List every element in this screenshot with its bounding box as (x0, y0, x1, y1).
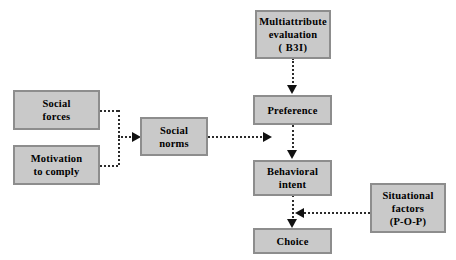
edge-line (300, 212, 370, 214)
node-label-line: Social (160, 124, 188, 137)
edge-line (208, 136, 266, 138)
arrowhead-down-icon (287, 150, 297, 159)
node-social-forces[interactable]: Social forces (13, 90, 100, 130)
edge-line (100, 110, 118, 112)
node-situational-factors[interactable]: Situational factors (P-O-P) (370, 183, 446, 233)
node-label-line: intent (279, 178, 306, 191)
node-label-line: (P-O-P) (390, 215, 426, 228)
node-social-norms[interactable]: Social norms (140, 117, 208, 156)
node-motivation-to-comply[interactable]: Motivation to comply (13, 145, 100, 185)
node-label-line: Behavioral (267, 165, 318, 178)
edge-line (118, 110, 120, 165)
node-label-line: Preference (268, 104, 318, 117)
node-label-line: norms (159, 137, 189, 150)
node-label-line: factors (392, 202, 424, 215)
edge-line (292, 195, 294, 222)
node-label-line: evaluation (269, 28, 318, 41)
node-label-formula: ( B3I) (279, 41, 308, 54)
edge-line (118, 136, 134, 138)
node-label-line: forces (43, 110, 71, 123)
node-label-line: Multiattribute (259, 15, 327, 28)
node-behavioral-intent[interactable]: Behavioral intent (253, 160, 332, 196)
arrowhead-down-icon (287, 85, 297, 94)
diagram-canvas: Multiattribute evaluation ( B3I) Social … (0, 0, 456, 260)
edge-line (292, 125, 294, 152)
arrowhead-down-icon (287, 219, 297, 228)
node-label-line: Choice (276, 235, 308, 248)
node-label-line: to comply (34, 165, 80, 178)
edge-line (100, 165, 118, 167)
edge-line (292, 58, 294, 87)
node-label-line: Social (42, 97, 70, 110)
arrowhead-right-icon (263, 132, 272, 142)
node-label-line: Motivation (31, 152, 83, 165)
node-preference[interactable]: Preference (253, 95, 332, 125)
node-multiattribute-evaluation[interactable]: Multiattribute evaluation ( B3I) (255, 10, 331, 59)
node-choice[interactable]: Choice (253, 228, 332, 254)
node-label-line: Situational (382, 189, 433, 202)
arrowhead-left-icon (295, 208, 304, 218)
